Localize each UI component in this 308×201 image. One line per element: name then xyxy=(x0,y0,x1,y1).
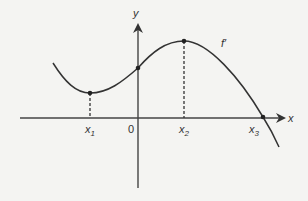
x1-label: x1 xyxy=(84,123,95,138)
derivative-graph: y x f′ 0 x1 x2 x3 xyxy=(0,0,308,201)
min-point xyxy=(88,91,93,96)
x3-label: x3 xyxy=(248,123,260,138)
x-axis-label: x xyxy=(287,112,294,124)
zero-point xyxy=(261,115,266,120)
origin-label: 0 xyxy=(128,123,134,135)
y-axis-label: y xyxy=(132,7,140,19)
function-label: f′ xyxy=(221,37,227,49)
x2-label: x2 xyxy=(178,123,190,138)
max-point xyxy=(182,39,187,44)
y-intercept-point xyxy=(136,66,141,71)
